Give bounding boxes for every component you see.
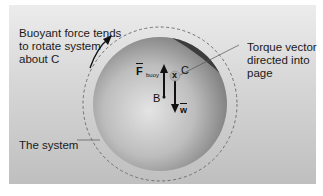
center-of-buoyancy-dot: [163, 96, 166, 99]
center-of-buoyancy-label: B: [153, 92, 160, 104]
buoyant-force-symbol: F: [136, 65, 143, 77]
buoyant-force-subscript: buoy: [146, 72, 159, 78]
weight-letter: w: [180, 105, 187, 115]
center-of-mass-label: C: [181, 64, 189, 76]
system-label: The system: [19, 139, 78, 152]
buoyant-rotation-label: Buoyant force tends to rotate system abo…: [19, 27, 129, 66]
torque-into-page-icon: x: [172, 70, 177, 80]
buoyant-force-letter: F: [136, 65, 143, 77]
weight-symbol: w: [180, 105, 187, 115]
torque-vector-label: Torque vector directed into page: [247, 41, 322, 80]
